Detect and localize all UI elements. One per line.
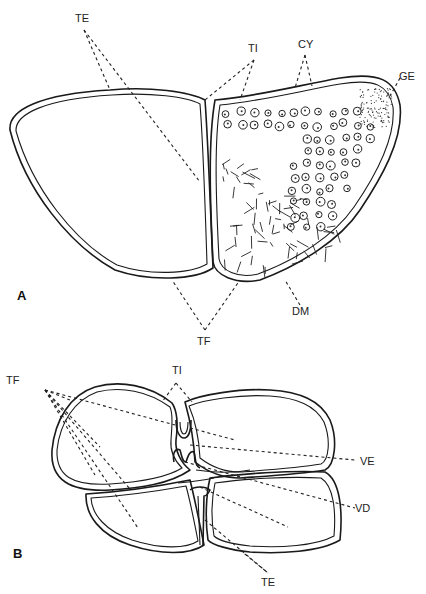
cell-nucleus	[355, 162, 357, 164]
stipple-dot	[387, 116, 388, 117]
cell-nucleus	[281, 113, 283, 115]
muscle-fiber	[237, 164, 244, 169]
stipple-dot	[386, 109, 387, 110]
panel-b-central-structures	[173, 420, 250, 545]
stipple-dot	[374, 107, 375, 108]
cytoplasm-cells	[222, 107, 374, 231]
cell-nucleus	[334, 177, 336, 179]
muscle-fiber	[244, 183, 254, 184]
stipple-dot	[388, 90, 389, 91]
stipple-dot	[363, 120, 364, 121]
cell-nucleus	[328, 188, 330, 190]
cell-nucleus	[294, 113, 296, 115]
cell-nucleus	[332, 215, 334, 217]
cell	[303, 159, 310, 166]
cell-nucleus	[316, 140, 318, 142]
panel-a: TE TI CY GE DM TF A	[10, 12, 415, 347]
stipple-dot	[389, 97, 390, 98]
panel-a-right-lobe	[210, 76, 400, 281]
cell-nucleus	[319, 192, 321, 194]
stipple-dot	[367, 108, 368, 109]
muscle-fiber	[255, 230, 264, 239]
stipple-dot	[388, 117, 389, 118]
muscle-fiber	[241, 252, 251, 257]
stipple-dot	[362, 91, 363, 92]
panel-b-lower-right-lobe	[206, 471, 341, 552]
stipple-dot	[361, 123, 362, 124]
muscle-fiber	[324, 232, 335, 233]
stipple-dot	[361, 105, 362, 106]
stipple-dot	[359, 117, 360, 118]
label-tf: TF	[197, 335, 211, 347]
cell-nucleus	[307, 149, 309, 151]
stipple-dot	[367, 121, 368, 122]
stipple-dot	[388, 120, 389, 121]
cell-nucleus	[267, 122, 269, 124]
stipple-dot	[378, 97, 379, 98]
cell-nucleus	[306, 137, 308, 139]
cell	[304, 224, 310, 230]
cell-nucleus	[290, 225, 292, 227]
panel-a-leaders	[84, 30, 400, 330]
cell	[367, 124, 373, 130]
stipple-dot	[372, 111, 373, 112]
stipple-dot	[388, 112, 389, 113]
stipple-dot	[381, 112, 382, 113]
stipple-dot	[365, 117, 366, 118]
stipple-dot	[364, 122, 365, 123]
stipple-dot	[378, 95, 379, 96]
cell-nucleus	[295, 177, 297, 179]
panel-a-left-lobe	[10, 89, 213, 278]
stipple-dot	[376, 100, 377, 101]
cell-nucleus	[319, 164, 321, 166]
stipple-dot	[368, 89, 369, 90]
muscle-fiber	[254, 213, 255, 225]
muscle-fiber	[269, 216, 270, 225]
stipple-dot	[378, 115, 379, 116]
cell-nucleus	[369, 138, 371, 140]
muscle-fiber	[325, 246, 332, 248]
label-vd: VD	[355, 502, 370, 514]
stipple-dot	[387, 94, 388, 95]
stipple-dot	[364, 124, 365, 125]
muscle-fiber	[230, 225, 243, 226]
stipple-dot	[360, 111, 361, 112]
germinal-epithelium-stipple	[359, 88, 392, 128]
stipple-dot	[384, 108, 385, 109]
cell-nucleus	[344, 174, 346, 176]
diagram-canvas: TE TI CY GE DM TF A	[0, 0, 426, 594]
stipple-dot	[380, 108, 381, 109]
cell	[326, 161, 335, 170]
cell-nucleus	[241, 110, 243, 112]
cell-nucleus	[357, 110, 359, 112]
muscle-fiber	[327, 226, 335, 227]
stipple-dot	[382, 126, 383, 127]
stipple-dot	[371, 108, 372, 109]
muscle-fiber	[297, 241, 309, 248]
stipple-dot	[380, 99, 381, 100]
stipple-dot	[384, 114, 385, 115]
stipple-dot	[383, 91, 384, 92]
muscle-fiber	[325, 248, 326, 262]
cell	[288, 121, 294, 127]
stipple-dot	[373, 121, 374, 122]
muscle-fiber	[273, 206, 281, 212]
stipple-dot	[391, 96, 392, 97]
cell-nucleus	[294, 216, 296, 218]
cell-nucleus	[329, 165, 331, 167]
stipple-dot	[381, 118, 382, 119]
cell	[313, 123, 322, 132]
cell-nucleus	[344, 161, 346, 163]
stipple-dot	[366, 102, 367, 103]
label-ve: VE	[360, 455, 375, 467]
cell	[342, 108, 349, 115]
cell	[290, 109, 298, 117]
cell-nucleus	[358, 124, 360, 126]
panel-label-a: A	[17, 288, 27, 303]
stipple-dot	[391, 97, 392, 98]
stipple-dot	[374, 127, 375, 128]
muscle-fiber	[226, 169, 228, 175]
stipple-dot	[386, 104, 387, 105]
stipple-dot	[385, 107, 386, 108]
stipple-dot	[385, 109, 386, 110]
